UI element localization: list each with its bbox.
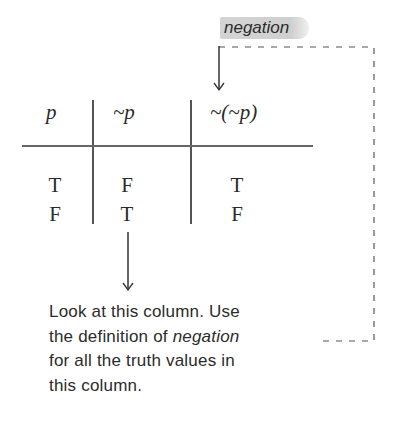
note-line: for all the truth values in: [49, 349, 329, 374]
explanation-note: Look at this column. Use the definition …: [49, 300, 329, 398]
header-divider: [22, 145, 313, 147]
arrow-down-icon: [214, 46, 224, 90]
callout-label: negation: [220, 17, 309, 39]
note-line: this column.: [49, 374, 329, 399]
note-line: Look at this column. Use: [49, 300, 329, 325]
table-cell: T: [222, 175, 252, 196]
note-emphasis: negation: [173, 327, 240, 346]
callout-label-text: negation: [224, 18, 289, 37]
header-not-p: ~p: [113, 102, 135, 123]
column-divider: [190, 100, 192, 224]
table-cell: F: [112, 175, 142, 196]
column-divider: [92, 100, 94, 224]
table-cell: F: [222, 204, 252, 225]
header-not-not-p: ~(~p): [210, 102, 257, 123]
header-p: p: [46, 102, 57, 123]
table-cell: T: [40, 175, 70, 196]
arrow-down-icon: [123, 232, 133, 290]
table-cell: F: [40, 204, 70, 225]
note-line: the definition of negation: [49, 325, 329, 350]
table-cell: T: [112, 204, 142, 225]
